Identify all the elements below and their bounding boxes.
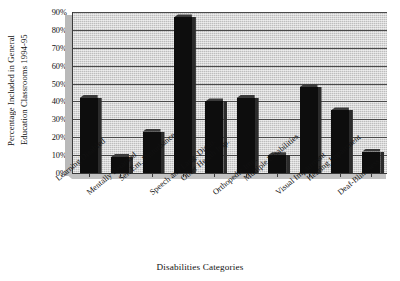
y-axis-tick-labels: 0%10%20%30%40%50%60%70%80%90%: [34, 0, 70, 180]
x-axis-title: Disabilities Categories: [0, 262, 400, 272]
gridline-80: [73, 30, 387, 31]
y-tick-label-40: 40%: [52, 97, 67, 106]
y-tick-label-90: 90%: [52, 8, 67, 17]
y-axis-title: Percentage Included in General Education…: [0, 0, 34, 180]
y-tick-label-70: 70%: [52, 43, 67, 52]
bar-3: [174, 17, 192, 173]
plot-left-wall: [65, 15, 72, 176]
y-tick-label-80: 80%: [52, 25, 67, 34]
y-axis-title-line-2: Education Classrooms 1994-95: [17, 0, 31, 180]
y-tick-label-50: 50%: [52, 79, 67, 88]
y-tick-label-20: 20%: [52, 133, 67, 142]
gridline-70: [73, 48, 387, 49]
y-tick-label-60: 60%: [52, 61, 67, 70]
x-axis-category-labels: Learning DisabledMentally RetardedSer. E…: [0, 176, 400, 256]
gridline-90: [73, 12, 387, 13]
y-axis-title-line-1: Percentage Included in General: [4, 0, 18, 180]
gridline-40: [73, 101, 387, 102]
y-tick-label-30: 30%: [52, 115, 67, 124]
gridline-60: [73, 66, 387, 67]
bar-chart-figure: Percentage Included in General Education…: [0, 0, 400, 281]
y-tick-label-10: 10%: [52, 151, 67, 160]
gridline-50: [73, 84, 387, 85]
